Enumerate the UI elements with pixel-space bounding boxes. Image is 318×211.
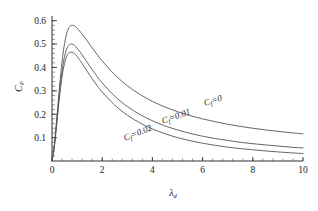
chart-figure: 0.10.20.30.40.50.6 0246810 Cf=0Cf=0.01Cf… bbox=[0, 0, 318, 211]
x-axis-major-ticks bbox=[52, 157, 303, 161]
y-tick-label: 0.6 bbox=[34, 16, 46, 26]
x-tick-label: 4 bbox=[150, 165, 155, 175]
y-tick-label: 0.3 bbox=[34, 86, 46, 96]
x-tick-label: 0 bbox=[50, 165, 55, 175]
x-axis-tick-labels: 0246810 bbox=[50, 165, 308, 175]
y-tick-label: 0.5 bbox=[34, 39, 46, 49]
svg-text:CP: CP bbox=[13, 81, 25, 92]
data-curves bbox=[52, 25, 303, 161]
chart-plot-area: 0.10.20.30.40.50.6 0246810 Cf=0Cf=0.01Cf… bbox=[0, 0, 318, 211]
label-cf-001: Cf=0.01 bbox=[160, 106, 192, 126]
x-axis-title: λd bbox=[168, 187, 177, 199]
y-tick-label: 0.4 bbox=[34, 63, 46, 73]
x-tick-label: 8 bbox=[250, 165, 255, 175]
y-tick-label: 0.1 bbox=[34, 133, 46, 143]
x-tick-label: 2 bbox=[100, 165, 105, 175]
x-tick-label: 10 bbox=[298, 165, 308, 175]
label-cf-0: Cf=0 bbox=[203, 93, 224, 109]
svg-text:λd: λd bbox=[168, 187, 177, 199]
x-tick-label: 6 bbox=[200, 165, 205, 175]
curve-series-0 bbox=[52, 25, 303, 161]
y-axis-tick-labels: 0.10.20.30.40.50.6 bbox=[34, 16, 46, 143]
y-tick-label: 0.2 bbox=[34, 110, 46, 120]
y-axis-title: CP bbox=[13, 81, 25, 92]
curve-series-1 bbox=[52, 44, 303, 161]
label-cf-002: Cf=0.02 bbox=[122, 122, 154, 143]
